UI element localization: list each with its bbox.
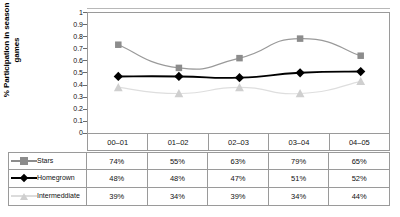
cell-homegrown-2: 47% — [208, 170, 269, 186]
data-point-homegrown-0 — [114, 72, 123, 81]
data-point-intermeddiate-0 — [114, 83, 123, 91]
data-point-intermeddiate-4 — [356, 77, 365, 85]
y-tick-label-01: 0.1 — [57, 117, 83, 124]
category-label-1: 01–02 — [148, 134, 208, 150]
cell-stars-4: 65% — [329, 153, 389, 169]
data-point-stars-3 — [297, 35, 304, 42]
table-row: Homegrown 48% 48% 47% 51% 52% — [9, 170, 389, 187]
category-header-row: 00–01 01–02 02–03 03–04 04–05 — [87, 134, 390, 151]
category-label-3: 03–04 — [269, 134, 329, 150]
plot-area — [87, 12, 390, 134]
y-axis-title: % Participation in season games — [2, 0, 42, 111]
cell-stars-3: 79% — [269, 153, 330, 169]
legend-item-stars: Stars — [9, 153, 87, 169]
cell-homegrown-4: 52% — [329, 170, 389, 186]
data-point-homegrown-1 — [174, 72, 183, 81]
cell-intermediate-3: 34% — [269, 188, 330, 205]
y-axis-title-line-2: games — [12, 0, 22, 111]
data-point-homegrown-4 — [356, 67, 365, 76]
category-label-2: 02–03 — [209, 134, 269, 150]
top-divider-rule — [87, 8, 390, 9]
y-tick-label-04: 0.4 — [57, 81, 83, 88]
category-label-0: 00–01 — [88, 134, 148, 150]
y-tick-label-07: 0.7 — [57, 45, 83, 52]
y-tick-label-02: 0.2 — [57, 105, 83, 112]
triangle-marker-icon — [20, 193, 28, 200]
plot-svg — [88, 13, 391, 135]
data-point-stars-0 — [115, 41, 122, 48]
legend-label-stars: Stars — [37, 157, 53, 165]
y-axis-title-line-1: % Participation in season — [2, 0, 12, 111]
legend-item-intermediate: Intermeddiate — [9, 188, 87, 205]
cell-intermediate-0: 39% — [87, 188, 148, 205]
data-table: Stars 74% 55% 63% 79% 65% Homegrown 48% … — [8, 152, 390, 206]
y-tick-label-08: 0.8 — [57, 33, 83, 40]
cell-stars-2: 63% — [208, 153, 269, 169]
data-point-stars-4 — [357, 52, 364, 59]
chart-screenshot: % Participation in season games 1 0.9 0.… — [0, 0, 400, 217]
cell-intermediate-2: 39% — [208, 188, 269, 205]
legend-label-intermediate: Intermeddiate — [37, 192, 80, 200]
y-tick-label-09: 0.9 — [57, 21, 83, 28]
table-row: Stars 74% 55% 63% 79% 65% — [9, 153, 389, 170]
cell-homegrown-0: 48% — [87, 170, 148, 186]
cell-homegrown-1: 48% — [148, 170, 209, 186]
category-label-4: 04–05 — [330, 134, 389, 150]
cell-intermediate-1: 34% — [148, 188, 209, 205]
legend-label-homegrown: Homegrown — [37, 174, 75, 182]
cell-stars-1: 55% — [148, 153, 209, 169]
y-tick-label-06: 0.6 — [57, 57, 83, 64]
y-axis-tick-labels: 1 0.9 0.8 0.7 0.6 0.5 0.4 0.3 0.2 0.1 0 — [52, 0, 83, 145]
y-tick-label-1: 1 — [57, 9, 83, 16]
data-point-stars-1 — [176, 65, 183, 72]
legend-key-homegrown — [11, 172, 37, 184]
cell-intermediate-4: 44% — [329, 188, 389, 205]
data-point-homegrown-3 — [296, 68, 305, 77]
diamond-marker-icon — [20, 174, 28, 182]
y-tick-label-05: 0.5 — [57, 69, 83, 76]
y-tick-label-03: 0.3 — [57, 93, 83, 100]
square-marker-icon — [20, 157, 28, 165]
legend-item-homegrown: Homegrown — [9, 170, 87, 186]
table-row: Intermeddiate 39% 34% 39% 34% 44% — [9, 188, 389, 205]
series-line-stars — [118, 39, 360, 70]
data-point-homegrown-2 — [235, 73, 244, 82]
legend-key-stars — [11, 155, 37, 167]
cell-stars-0: 74% — [87, 153, 148, 169]
y-tick-label-0: 0 — [57, 129, 83, 136]
legend-key-intermediate — [11, 190, 37, 202]
cell-homegrown-3: 51% — [269, 170, 330, 186]
data-point-stars-2 — [236, 55, 243, 62]
